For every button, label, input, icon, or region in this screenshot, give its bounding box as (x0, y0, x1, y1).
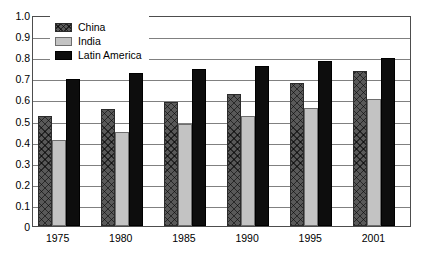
x-axis-tick-label: 1980 (91, 232, 151, 244)
bar-china-1990 (227, 94, 241, 226)
bar-latin-1980 (129, 73, 143, 226)
y-axis-tick-label: 0.5 (0, 117, 30, 127)
bar-latin-1975 (66, 79, 80, 226)
y-axis-tick-label: 0.7 (0, 74, 30, 84)
bar-india-1990 (241, 116, 255, 226)
legend-swatch-china-icon (55, 23, 72, 32)
bar-latin-2001 (381, 58, 395, 226)
chart-legend: ChinaIndiaLatin America (50, 16, 149, 66)
y-axis-tick-label: 0.3 (0, 159, 30, 169)
x-axis: 197519801985199019952001 (32, 232, 411, 254)
legend-item-label: China (78, 22, 105, 33)
bar-china-1980 (101, 109, 115, 226)
legend-item-latin: Latin America (55, 48, 142, 62)
y-axis-tick-label: 0.4 (0, 138, 30, 148)
legend-swatch-latin-icon (55, 51, 72, 60)
legend-swatch-india-icon (55, 37, 72, 46)
x-axis-tick-label: 1985 (154, 232, 214, 244)
bar-india-1980 (115, 132, 129, 226)
bar-china-1995 (290, 83, 304, 226)
bar-india-1975 (52, 140, 66, 227)
y-axis-tick-label: 0.9 (0, 32, 30, 42)
bar-latin-1990 (255, 66, 269, 226)
y-axis-tick-label: 1.0 (0, 11, 30, 21)
bar-india-1995 (304, 108, 318, 226)
legend-item-india: India (55, 34, 142, 48)
bar-china-1975 (38, 116, 52, 226)
y-axis-tick-label: 0.2 (0, 180, 30, 190)
bar-india-2001 (367, 99, 381, 226)
x-axis-tick-label: 1975 (28, 232, 88, 244)
legend-item-label: Latin America (78, 50, 142, 61)
bar-latin-1995 (318, 61, 332, 226)
y-axis-tick-label: 0 (0, 222, 30, 232)
x-axis-tick-label: 1995 (280, 232, 340, 244)
x-axis-tick-label: 2001 (343, 232, 403, 244)
legend-item-china: China (55, 20, 142, 34)
bar-chart: 00.10.20.30.40.50.60.70.80.91.0 19751980… (0, 0, 423, 260)
y-axis-tick-label: 0.8 (0, 53, 30, 63)
y-axis-tick-label: 0.1 (0, 201, 30, 211)
legend-item-label: India (78, 36, 101, 47)
y-axis-tick-label: 0.6 (0, 95, 30, 105)
x-axis-tick-label: 1990 (217, 232, 277, 244)
bar-china-2001 (353, 71, 367, 226)
bar-india-1985 (178, 124, 192, 226)
bar-latin-1985 (192, 69, 206, 226)
y-axis: 00.10.20.30.40.50.60.70.80.91.0 (0, 0, 30, 260)
bar-china-1985 (164, 102, 178, 226)
